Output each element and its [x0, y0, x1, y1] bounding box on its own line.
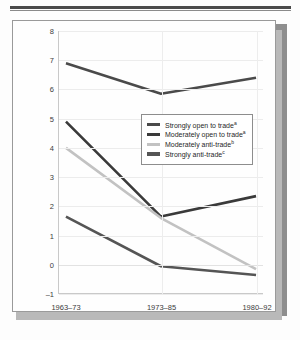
- y-axis-tick-label: 7: [50, 56, 54, 65]
- legend-footnote-marker: c: [222, 149, 225, 155]
- y-axis-tick-label: 3: [50, 173, 54, 182]
- legend-footnote-marker: a: [243, 129, 246, 135]
- x-axis-tick-label: 1963–73: [51, 303, 80, 312]
- chart-card: Average Annual Growth of GDP per Capita …: [12, 20, 276, 312]
- legend-item: Moderately anti-tradeb: [147, 140, 246, 148]
- y-axis-tick-label: 0: [50, 260, 54, 269]
- legend-footnote-marker: a: [234, 120, 237, 126]
- x-gridline: [257, 31, 258, 294]
- y-axis-tick-label: 4: [50, 143, 54, 152]
- top-rule-thin: [10, 10, 291, 11]
- legend-item: Strongly open to tradea: [147, 121, 246, 129]
- top-rule-thick: [10, 6, 291, 9]
- legend-item-label: Strongly open to tradea: [165, 121, 237, 129]
- legend-footnote-marker: b: [231, 139, 234, 145]
- legend-item: Strongly anti-tradec: [147, 150, 246, 158]
- y-axis-tick-label: 8: [50, 27, 54, 36]
- legend-swatch-icon: [147, 123, 160, 127]
- y-axis-tick-label: 6: [50, 85, 54, 94]
- y-axis-tick-label: 5: [50, 114, 54, 123]
- figure-page: Average Annual Growth of GDP per Capita …: [0, 0, 300, 340]
- y-gridline: [59, 294, 263, 295]
- x-axis-tick-label: 1973–85: [147, 303, 176, 312]
- x-axis-tick-label: 1980–92: [242, 303, 271, 312]
- legend-swatch-icon: [147, 143, 160, 147]
- y-axis-tick-label: 1: [50, 231, 54, 240]
- legend-item-label: Moderately anti-tradeb: [165, 140, 234, 148]
- y-axis-tick-label: 2: [50, 202, 54, 211]
- legend-item: Moderately open to tradea: [147, 130, 246, 138]
- chart-legend: Strongly open to tradeaModerately open t…: [141, 114, 253, 165]
- legend-swatch-icon: [147, 133, 160, 137]
- legend-swatch-icon: [147, 152, 160, 156]
- legend-item-label: Moderately open to tradea: [165, 130, 246, 138]
- y-axis-tick-label: –1: [46, 290, 54, 299]
- legend-item-label: Strongly anti-tradec: [165, 150, 225, 158]
